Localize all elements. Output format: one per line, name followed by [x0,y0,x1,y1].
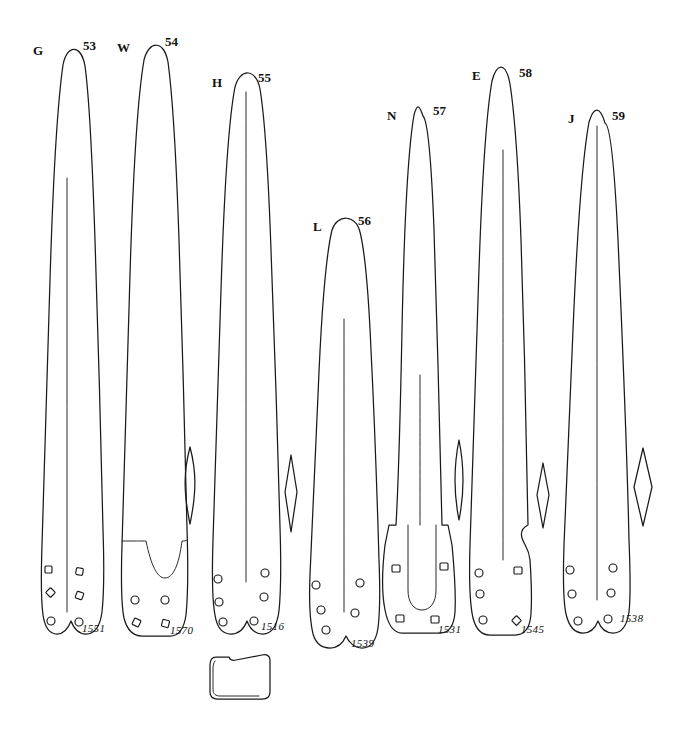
rivet-hole [351,609,359,617]
rivet-hole [574,617,582,625]
artifact-figure-59: 59 [612,108,625,124]
rivet-hole [161,596,169,604]
artifact-catalog-1516: 1516 [261,620,284,632]
artifact-catalog-1538: 1538 [620,612,643,624]
socket-cross-section-inner [213,661,259,696]
rivet-hole [566,566,574,574]
artifact-outline-n-57 [383,107,456,633]
rivet-hole [161,619,170,628]
cross-section-diamond-h-55 [285,455,297,532]
rivet-hole [604,615,612,623]
artifact-outline-g-53 [41,49,103,634]
rivet-hole [609,564,617,572]
artifact-n-57 [383,107,463,633]
artifact-letter-g: G [33,43,43,59]
artifact-letter-h: H [212,75,222,91]
artifact-figure-54: 54 [165,34,178,50]
artifact-letter-l: L [313,219,322,235]
artifact-outline-h-55 [212,73,280,634]
rivet-hole [431,616,439,623]
rivet-hole [479,616,487,624]
rivet-hole [131,596,139,604]
artifact-h-55 [210,73,297,699]
rivet-hole [476,590,484,598]
rivet-hole [75,591,84,600]
artifact-catalog-1570: 1570 [170,624,193,636]
rivet-hole [440,563,448,570]
artifact-j-59 [563,110,652,633]
rivet-hole [312,581,320,589]
artifact-catalog-1551: 1551 [82,622,105,634]
rivet-hole [512,616,522,626]
rivet-hole [250,617,258,625]
artifact-figure-57: 57 [433,103,446,119]
rivet-hole [396,615,404,622]
artifact-catalog-1539: 1539 [351,637,374,649]
rivet-hole [75,567,83,575]
rivet-hole [317,606,325,614]
artifact-catalog-1531: 1531 [438,623,461,635]
artifact-e-58 [470,67,549,635]
artifact-figure-53: 53 [83,38,96,54]
rivet-hole [214,575,222,583]
rivet-hole [46,588,56,598]
rivet-hole [261,569,269,577]
rivet-hole [47,617,55,625]
artifact-letter-e: E [472,68,481,84]
artifact-figure-55: 55 [258,70,271,86]
artifact-g-53 [41,49,103,634]
rivet-hole [219,618,227,626]
artifact-w-54 [121,45,194,636]
rivet-hole [392,565,400,572]
artifact-letter-n: N [387,108,396,124]
artifact-letter-w: W [117,40,130,56]
rivet-hole [45,566,52,573]
artifact-letter-j: J [568,111,575,127]
artifact-outline-e-58 [470,67,532,635]
cross-section-lenticular-n-57 [455,440,463,520]
rivet-hole [215,598,223,606]
rivet-hole [260,593,268,601]
artifact-outline-w-54 [121,45,187,636]
cross-section-diamond-j-59 [634,448,652,526]
artifact-l-56 [310,218,380,648]
artifact-figure-56: 56 [358,213,371,229]
artifact-catalog-1545: 1545 [521,623,544,635]
rivet-hole [132,618,141,627]
rivet-hole [475,569,483,577]
rivet-hole [322,626,330,634]
socket-cross-section-profile [210,655,270,699]
rivet-hole [607,589,615,597]
illustration-plate: G 53 1551 W 54 1570 H 55 1516 L 56 1539 … [0,0,677,734]
rivet-hole [568,590,576,598]
cross-section-diamond-e-58 [537,463,549,528]
artifact-socket-n-57 [408,525,436,610]
artifact-shoulder-line-w-54 [122,540,187,578]
rivet-hole [356,579,364,587]
rivet-hole [514,567,522,574]
artifact-figure-58: 58 [519,65,532,81]
